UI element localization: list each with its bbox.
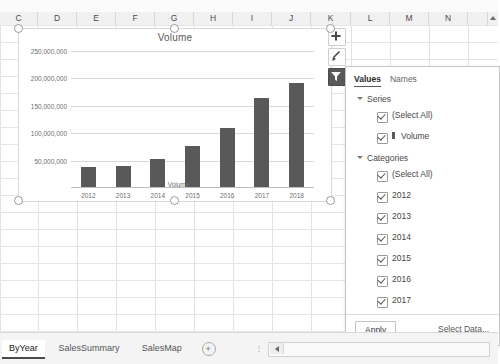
chart-handle-bottom-center[interactable] [170, 196, 179, 205]
chart-bars [71, 51, 314, 187]
bar-cell [175, 51, 210, 187]
column-header-e[interactable]: E [77, 12, 116, 25]
bar-cell [245, 51, 280, 187]
x-axis-tick-label-2012: 2012 [71, 192, 106, 199]
filter-item-2016[interactable]: 2016 [346, 272, 499, 293]
sheet-tab-salesmap[interactable]: SalesMap [135, 340, 189, 357]
triangle-down-icon [357, 156, 363, 159]
checkbox[interactable] [377, 234, 388, 245]
filter-item-label: 2014 [392, 232, 411, 242]
bar-cell [140, 51, 175, 187]
window-top-strip [0, 0, 498, 12]
column-header-i[interactable]: I [233, 12, 272, 25]
sheet-tab-byyear[interactable]: ByYear [2, 340, 45, 359]
vertical-scroll-up-button[interactable] [487, 12, 498, 25]
x-axis-tick-label-2017: 2017 [245, 192, 280, 199]
filter-tab-values[interactable]: Values [354, 74, 381, 87]
triangle-left-icon [275, 346, 279, 352]
column-header-n[interactable]: N [429, 12, 468, 25]
check-icon [377, 170, 385, 179]
bar-2017[interactable] [254, 98, 269, 187]
legend-label: Volume [168, 181, 190, 188]
triangle-down-icon [357, 97, 363, 100]
checkbox[interactable] [377, 112, 388, 123]
column-header-l[interactable]: L [351, 12, 390, 25]
scroll-left-button[interactable] [270, 343, 284, 354]
filter-item-selectall[interactable]: (Select All) [346, 108, 499, 129]
filter-item-2013[interactable]: 2013 [346, 209, 499, 230]
chart-styles-button[interactable] [328, 48, 346, 66]
horizontal-scrollbar[interactable]: ⋮ [268, 342, 490, 357]
filter-panel-body[interactable]: Series(Select All)VolumeCategories(Selec… [346, 91, 499, 315]
filter-group-series[interactable]: Series [346, 91, 499, 108]
check-icon [377, 191, 385, 200]
checkbox[interactable] [377, 255, 388, 266]
chart-filters-button[interactable] [328, 68, 346, 86]
chart-object[interactable]: Volume 250,000,000200,000,000150,000,000… [18, 28, 332, 202]
funnel-icon [329, 69, 343, 83]
chart-handle-top-right[interactable] [326, 24, 335, 33]
chart-handle-top-center[interactable] [170, 24, 179, 33]
filter-tab-names[interactable]: Names [390, 74, 417, 86]
chart-legend[interactable]: Volume [19, 179, 331, 189]
bar-cell [71, 51, 106, 187]
check-icon [377, 254, 385, 263]
check-icon [377, 275, 385, 284]
x-axis-tick-label-2013: 2013 [106, 192, 141, 199]
y-axis-tick-label: 50,000,000 [34, 157, 67, 164]
triangle-up-icon [490, 16, 496, 20]
check-icon [377, 233, 385, 242]
chart-handle-bottom-right[interactable] [326, 196, 335, 205]
checkbox[interactable] [377, 192, 388, 203]
checkbox[interactable] [377, 297, 388, 308]
chart-handle-top-left[interactable] [14, 24, 23, 33]
checkbox[interactable] [377, 276, 388, 287]
bar-cell [210, 51, 245, 187]
brush-icon [329, 49, 343, 63]
chart-handle-bottom-left[interactable] [14, 196, 23, 205]
grid-column-line [0, 25, 1, 333]
filter-group-label: Series [367, 94, 391, 104]
check-icon [377, 111, 385, 120]
filter-item-label: 2013 [392, 211, 411, 221]
tab-split-handle[interactable]: ⋮ [255, 344, 263, 353]
column-header-m[interactable]: M [390, 12, 429, 25]
column-header-row: CDEFGHIJKLMN [0, 12, 498, 26]
column-header-h[interactable]: H [194, 12, 233, 25]
filter-item-label: (Select All) [392, 110, 433, 120]
column-header-j[interactable]: J [272, 12, 311, 25]
y-axis-tick-label: 150,000,000 [31, 102, 67, 109]
filter-item-2014[interactable]: 2014 [346, 230, 499, 251]
filter-item-2017[interactable]: 2017 [346, 293, 499, 314]
filter-item-label: 2015 [392, 253, 411, 263]
x-axis-tick-label-2016: 2016 [210, 192, 245, 199]
check-icon [377, 132, 385, 141]
checkbox[interactable] [377, 213, 388, 224]
filter-item-label: 2012 [392, 190, 411, 200]
chart-filter-panel[interactable]: ValuesNames Series(Select All)VolumeCate… [345, 66, 500, 346]
filter-item-label: 2017 [392, 295, 411, 305]
column-header-f[interactable]: F [116, 12, 155, 25]
filter-item-selectall[interactable]: (Select All) [346, 167, 499, 188]
filter-group-categories[interactable]: Categories [346, 150, 499, 167]
column-header-d[interactable]: D [38, 12, 77, 25]
plus-icon: + [206, 344, 211, 354]
filter-panel-tabs: ValuesNames [354, 74, 426, 87]
filter-item-volume[interactable]: Volume [346, 129, 499, 150]
filter-item-2015[interactable]: 2015 [346, 251, 499, 272]
checkbox[interactable] [377, 133, 388, 144]
sheet-tab-salessummary[interactable]: SalesSummary [52, 340, 127, 357]
y-axis-tick-label: 250,000,000 [31, 48, 67, 55]
legend-swatch-icon [161, 183, 165, 187]
sheet-tab-bar: ⋮ ByYearSalesSummarySalesMap+ [0, 332, 498, 364]
filter-item-2012[interactable]: 2012 [346, 188, 499, 209]
y-axis-tick-label: 100,000,000 [31, 130, 67, 137]
add-sheet-button[interactable]: + [202, 342, 216, 356]
checkbox[interactable] [377, 171, 388, 182]
series-color-swatch-icon [392, 132, 395, 139]
x-axis-tick-label-2018: 2018 [279, 192, 314, 199]
bar-2018[interactable] [289, 83, 304, 187]
grid-row-line [0, 25, 498, 26]
chart-title: Volume [19, 32, 331, 43]
